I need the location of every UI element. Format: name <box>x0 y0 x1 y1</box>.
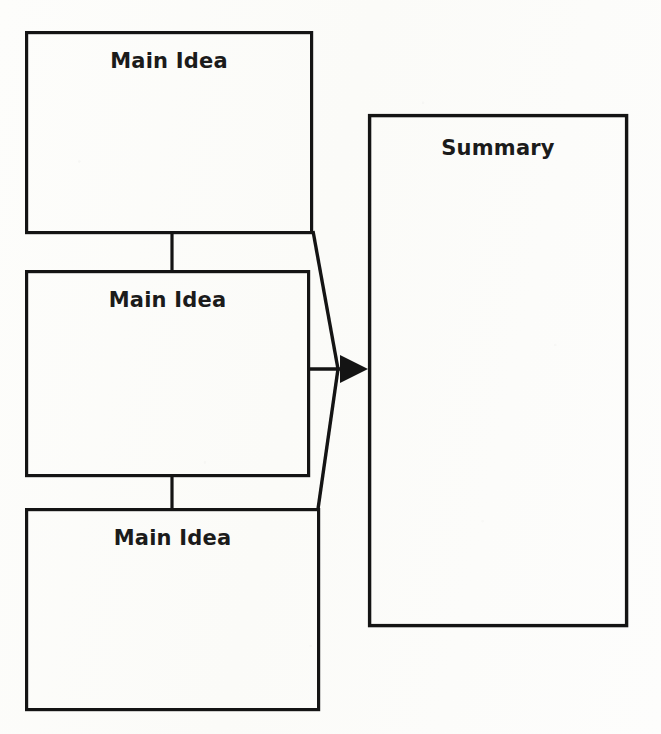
graphic-organizer-page: Main Idea Main Idea Main Idea Summary <box>0 0 661 734</box>
summary-box[interactable]: Summary <box>368 114 628 627</box>
main-idea-box-1[interactable]: Main Idea <box>25 31 313 234</box>
main-idea-label-2: Main Idea <box>25 288 310 312</box>
main-idea-label-3: Main Idea <box>25 526 320 550</box>
main-idea-box-3[interactable]: Main Idea <box>25 508 320 711</box>
main-idea-label-1: Main Idea <box>25 49 313 73</box>
main-idea-box-2[interactable]: Main Idea <box>25 270 310 477</box>
summary-label: Summary <box>368 136 628 160</box>
